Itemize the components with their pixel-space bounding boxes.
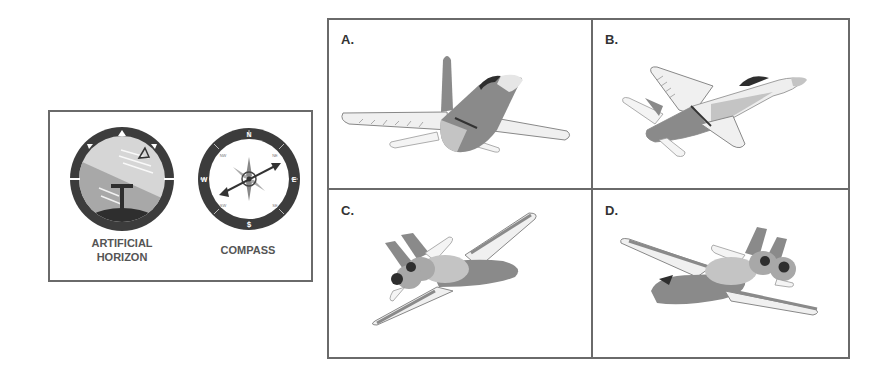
instrument-panel: ARTIFICIAL HORIZON N E S W NW NE SW SE C… — [48, 110, 313, 282]
option-b[interactable]: B. — [593, 20, 854, 187]
answer-options-grid: A. B. — [327, 18, 850, 359]
grid-divider-horizontal — [329, 188, 848, 190]
airplane-a-icon — [329, 20, 590, 187]
option-label: C. — [341, 203, 354, 218]
label-line-1: ARTIFICIAL — [72, 236, 172, 250]
svg-text:N: N — [246, 131, 251, 138]
artificial-horizon-label: ARTIFICIAL HORIZON — [72, 236, 172, 264]
airplane-b-icon — [593, 20, 854, 187]
svg-text:SW: SW — [220, 203, 227, 208]
svg-text:SE: SE — [272, 203, 278, 208]
option-a[interactable]: A. — [329, 20, 590, 187]
svg-text:S: S — [247, 221, 252, 228]
svg-text:W: W — [201, 176, 208, 183]
svg-text:E: E — [292, 176, 297, 183]
option-label: A. — [341, 32, 354, 47]
option-d[interactable]: D. — [593, 191, 854, 358]
label-line-2: HORIZON — [72, 250, 172, 264]
svg-text:NW: NW — [220, 153, 227, 158]
compass-icon: N E S W NW NE SW SE — [197, 127, 301, 231]
option-c[interactable]: C. — [329, 191, 590, 358]
option-label: D. — [605, 203, 618, 218]
airplane-c-icon — [329, 191, 590, 358]
artificial-horizon-icon — [69, 126, 175, 232]
svg-text:NE: NE — [272, 153, 278, 158]
airplane-d-icon — [593, 191, 854, 358]
compass-label: COMPASS — [198, 243, 298, 257]
option-label: B. — [605, 32, 618, 47]
